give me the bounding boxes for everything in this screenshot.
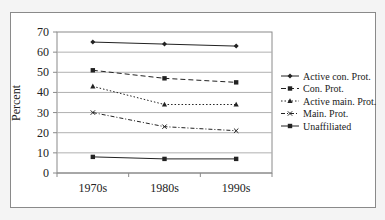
legend-label: Con. Prot.: [303, 83, 344, 94]
y-tick-label: 70: [37, 25, 49, 39]
y-axis-ticks: 010203040506070: [37, 25, 57, 180]
legend-label: Active con. Prot.: [303, 71, 371, 82]
x-tick-label: 1980s: [150, 181, 179, 195]
legend-item: Con. Prot.: [281, 83, 344, 94]
series-active-con-prot: [90, 40, 238, 49]
legend-label: Active main. Prot.: [303, 96, 376, 107]
y-tick-label: 30: [37, 106, 49, 120]
legend: Active con. Prot.Con. Prot.Active main. …: [281, 71, 376, 132]
x-tick-label: 1970s: [78, 181, 107, 195]
series-unaffiliated: [91, 155, 239, 161]
legend-item: Active main. Prot.: [281, 96, 376, 107]
y-tick-label: 10: [37, 146, 49, 160]
x-tick-label: 1990s: [222, 181, 251, 195]
legend-label: Unaffiliated: [303, 121, 351, 132]
legend-item: Main. Prot.: [281, 108, 348, 119]
legend-label: Main. Prot.: [303, 108, 348, 119]
gridlines: [57, 52, 272, 173]
y-tick-label: 20: [37, 126, 49, 140]
series-con-prot: [91, 68, 239, 84]
y-tick-label: 0: [43, 166, 49, 180]
x-axis-ticks: 1970s1980s1990s: [57, 173, 272, 195]
y-axis-label: Percent: [9, 84, 23, 121]
legend-item: Unaffiliated: [281, 121, 351, 132]
y-tick-label: 60: [37, 45, 49, 59]
y-tick-label: 50: [37, 65, 49, 79]
legend-item: Active con. Prot.: [281, 71, 371, 82]
series-active-main-prot: [90, 84, 239, 107]
series-lines: [90, 40, 239, 162]
line-chart: 010203040506070 1970s1980s1990s Percent …: [0, 0, 385, 220]
y-tick-label: 40: [37, 85, 49, 99]
series-main-prot: [91, 110, 239, 133]
